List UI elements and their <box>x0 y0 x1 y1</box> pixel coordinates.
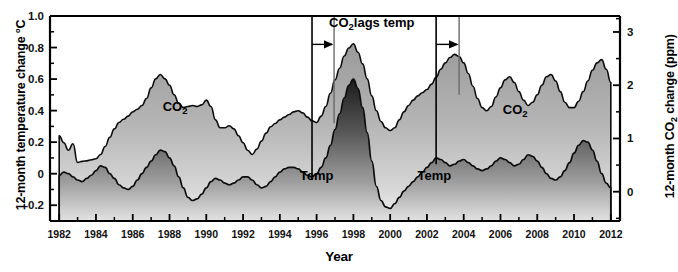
series-label-temp-right: Temp <box>417 168 451 183</box>
x-tick-label: 2010 <box>562 228 586 240</box>
x-tick-label: 2008 <box>526 228 550 240</box>
y-right-tick-label: 3 <box>627 26 633 38</box>
y-right-tick-label: 2 <box>627 79 633 91</box>
series-label-temp-left: Temp <box>300 168 334 183</box>
y-left-tick-label: 0.8 <box>28 42 45 54</box>
x-axis-title: Year <box>0 249 678 264</box>
y-left-tick-label: 1.0 <box>28 10 44 22</box>
chart-figure: 12-month temperature change °C 12-month … <box>0 0 678 272</box>
x-tick-label: 1998 <box>342 228 366 240</box>
x-tick-label: 1988 <box>158 228 182 240</box>
chart-plot-area: -0.200.20.40.60.81.0 0123 19821984198619… <box>0 0 678 272</box>
y-axis-left-ticks: -0.200.20.40.60.81.0 <box>24 10 57 221</box>
y-right-tick-label: 0 <box>627 186 633 198</box>
x-tick-label: 2002 <box>415 228 439 240</box>
x-tick-label: 1996 <box>305 228 329 240</box>
x-tick-label: 1992 <box>231 228 255 240</box>
series-label-temp-left-text: Temp <box>300 168 334 183</box>
x-tick-label: 1994 <box>268 228 292 240</box>
y-left-tick-label: 0.4 <box>28 105 45 117</box>
co2-lags-temp: CO2lags temp <box>329 15 415 32</box>
series-label-co2-left: CO2 <box>163 99 188 116</box>
x-tick-label: 2000 <box>378 228 402 240</box>
co2-lags-temp-text: CO2lags temp <box>329 15 415 32</box>
x-tick-label: 1984 <box>84 228 108 240</box>
x-tick-label: 2012 <box>599 228 623 240</box>
y-axis-right-title: 12-month CO2 change (ppm) <box>663 11 678 221</box>
series-label-co2-left-text: CO2 <box>163 99 188 116</box>
y-left-tick-label: 0.2 <box>28 136 44 148</box>
series-label-temp-right-text: Temp <box>417 168 451 183</box>
y-left-tick-label: 0 <box>38 168 44 180</box>
series-layer <box>59 44 611 227</box>
x-tick-label: 1990 <box>195 228 219 240</box>
x-tick-label: 2006 <box>489 228 513 240</box>
y-right-tick-label: 1 <box>627 132 634 144</box>
y-axis-right-ticks: 0123 <box>613 19 634 219</box>
x-tick-label: 1986 <box>121 228 145 240</box>
y-axis-left-title: 12-month temperature change °C <box>14 10 28 220</box>
y-left-tick-label: 0.6 <box>28 73 44 85</box>
x-tick-label: 2004 <box>452 228 476 240</box>
y-axis-right-title-text: 12-month CO2 change (ppm) <box>663 34 677 198</box>
x-tick-label: 1982 <box>48 228 72 240</box>
